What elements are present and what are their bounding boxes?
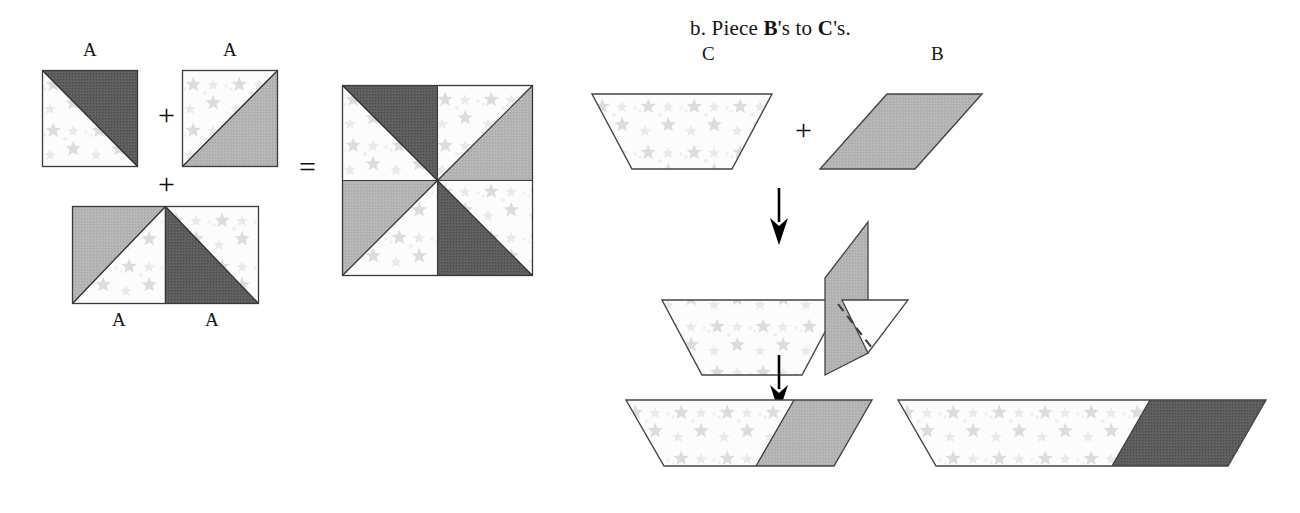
step2-c-with-b-flipped: [660, 220, 950, 360]
operator-equals: =: [299, 152, 316, 182]
figure-heading: b. Piece B's to C's.: [690, 18, 851, 39]
heading-prefix: b. Piece: [690, 16, 764, 40]
square-a-bottom-right: [165, 206, 259, 304]
operator-plus-1: +: [158, 100, 175, 130]
heading-suffix: 's.: [833, 16, 851, 40]
square-a-top-left: [42, 70, 138, 167]
heading-letter-b: B: [764, 16, 778, 40]
square-a-top-right: [182, 70, 278, 167]
piece-c-trapezoid: [591, 92, 773, 172]
operator-plus-2: +: [158, 169, 175, 199]
finished-unit-medium: [624, 398, 874, 470]
label-a-top-left: A: [83, 40, 97, 59]
operator-plus-right: +: [795, 115, 812, 145]
label-piece-b: B: [931, 44, 944, 63]
heading-middle: 's to: [778, 16, 818, 40]
piece-b-parallelogram: [818, 92, 984, 172]
square-a-bottom-left: [72, 206, 166, 304]
label-piece-c: C: [702, 44, 715, 63]
label-a-top-right: A: [223, 40, 237, 59]
label-a-bottom-left: A: [112, 310, 126, 329]
label-a-bottom-right: A: [205, 310, 219, 329]
finished-unit-dark: [896, 398, 1268, 470]
heading-letter-c: C: [818, 16, 833, 40]
pinwheel-block: [342, 85, 533, 276]
